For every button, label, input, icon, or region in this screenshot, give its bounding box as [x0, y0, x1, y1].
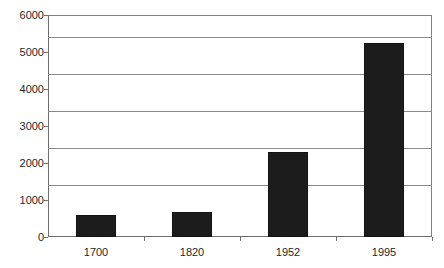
x-axis-tick-label: 1995	[372, 246, 396, 258]
y-axis-tick-mark	[44, 15, 48, 16]
y-axis-tick-mark	[44, 163, 48, 164]
x-axis-tick-label: 1700	[84, 246, 108, 258]
y-axis-tick-mark	[44, 52, 48, 53]
x-axis-tick-mark	[144, 237, 145, 241]
bar	[76, 215, 116, 237]
y-axis-tick-label: 6000	[0, 9, 44, 21]
y-axis-tick-mark	[44, 89, 48, 90]
x-axis-tick-mark	[336, 237, 337, 241]
bar	[268, 152, 308, 237]
gridline	[48, 37, 432, 38]
x-axis-tick-label: 1820	[180, 246, 204, 258]
bar-chart: 1700182019521995 01000200030004000500060…	[0, 0, 444, 268]
bar	[172, 212, 212, 237]
y-axis-tick-mark	[44, 200, 48, 201]
y-axis-tick-label: 1000	[0, 194, 44, 206]
x-axis-tick-label: 1952	[276, 246, 300, 258]
x-axis-tick-mark	[240, 237, 241, 241]
y-axis-tick-label: 0	[0, 231, 44, 243]
y-axis-tick-label: 5000	[0, 46, 44, 58]
x-axis-tick-mark	[432, 237, 433, 241]
bar	[364, 43, 404, 237]
y-axis-tick-mark	[44, 126, 48, 127]
y-axis-tick-label: 2000	[0, 157, 44, 169]
y-axis-tick-label: 3000	[0, 120, 44, 132]
y-axis-tick-mark	[44, 237, 48, 238]
y-axis-tick-label: 4000	[0, 83, 44, 95]
